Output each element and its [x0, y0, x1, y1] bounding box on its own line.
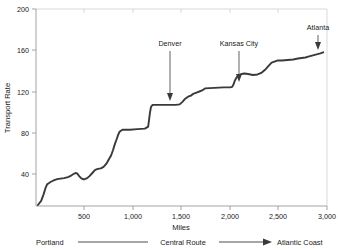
y-tick-label-160: 160 — [17, 46, 29, 55]
x-tick-label-1000: 1,000 — [124, 212, 142, 221]
annotation-label-kansas-city: Kansas City — [220, 39, 259, 48]
arrow-head-icon — [315, 42, 321, 50]
y-tick-label-120: 120 — [17, 88, 29, 97]
transport-rate-chart-figure: 200 160 120 80 40 Transport Rate 500 1,0… — [0, 0, 338, 251]
x-axis-title: Miles — [172, 223, 190, 232]
annotation-atlanta: Atlanta — [307, 23, 329, 50]
route-caption: Portland Central Route Atlantic Coast — [36, 238, 323, 247]
y-tick-label-80: 80 — [21, 129, 29, 138]
caption-left-portland: Portland — [36, 238, 64, 247]
caption-center-central-route: Central Route — [160, 238, 206, 247]
transport-rate-line — [38, 52, 323, 205]
x-axis: 500 1,000 1,500 2,000 2,500 3,000 Miles — [36, 206, 336, 232]
arrow-head-icon — [167, 93, 173, 101]
x-tick-label-500: 500 — [78, 212, 90, 221]
caption-right-atlantic-coast: Atlantic Coast — [277, 238, 323, 247]
caption-arrow-head-icon — [263, 239, 272, 246]
x-tick-label-2000: 2,000 — [221, 212, 239, 221]
y-tick-label-200: 200 — [17, 5, 29, 14]
annotation-denver: Denver — [158, 39, 182, 101]
chart-canvas: 200 160 120 80 40 Transport Rate 500 1,0… — [0, 0, 338, 251]
x-tick-label-3000: 3,000 — [318, 212, 336, 221]
annotation-label-atlanta: Atlanta — [307, 23, 329, 32]
y-axis-title: Transport Rate — [3, 83, 12, 133]
x-tick-label-2500: 2,500 — [269, 212, 287, 221]
y-tick-label-40: 40 — [21, 170, 29, 179]
y-axis: 200 160 120 80 40 Transport Rate — [3, 5, 36, 206]
annotation-label-denver: Denver — [158, 39, 182, 48]
top-axis-ticks — [84, 9, 278, 13]
x-tick-label-1500: 1,500 — [172, 212, 190, 221]
